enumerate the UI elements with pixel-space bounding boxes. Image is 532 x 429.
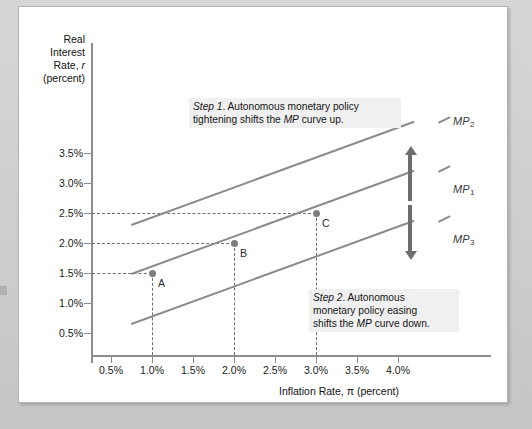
y-axis-title-line3: Rate, r bbox=[27, 59, 85, 72]
y-tick-1.5 bbox=[84, 273, 91, 274]
data-point-C bbox=[313, 210, 320, 217]
y-axis-line bbox=[91, 43, 93, 363]
curve-mp2-leader bbox=[438, 116, 451, 123]
y-tick-2.5 bbox=[84, 213, 91, 214]
curve-mp1-leader bbox=[438, 165, 451, 172]
data-point-B bbox=[231, 240, 238, 247]
data-point-label-B: B bbox=[240, 247, 247, 259]
y-tick-label-3.5: 3.5% bbox=[37, 148, 83, 158]
x-tick-label-4.0: 4.0% bbox=[373, 364, 423, 376]
x-tick-0.5 bbox=[111, 356, 112, 363]
x-tick-3.0 bbox=[316, 356, 317, 363]
curve-label-mp2: MP2 bbox=[453, 115, 475, 129]
y-axis-title: Real Interest Rate, r (percent) bbox=[27, 33, 85, 85]
annotation-step-2: Step 2. Autonomous monetary policy easin… bbox=[309, 289, 459, 332]
annotation-step-2-line1: Step 2. Autonomous bbox=[313, 291, 455, 304]
shift-arrow-up-head bbox=[405, 146, 417, 155]
curve-mp2 bbox=[131, 121, 414, 226]
shift-arrow-up-shaft bbox=[408, 155, 412, 201]
annotation-step-2-line3: shifts the MP curve down. bbox=[313, 317, 455, 330]
annotation-step-1-line1: Step 1. Autonomous monetary policy bbox=[193, 100, 397, 113]
shift-arrow-down-head bbox=[405, 251, 417, 260]
curve-label-mp3: MP3 bbox=[453, 233, 475, 247]
y-tick-3.5 bbox=[84, 153, 91, 154]
x-tick-3.5 bbox=[357, 356, 358, 363]
y-axis-title-line2: Interest bbox=[27, 46, 85, 59]
y-tick-label-1.0: 1.0% bbox=[37, 298, 83, 308]
guide-h-1.5 bbox=[92, 273, 152, 274]
annotation-step-1: Step 1. Autonomous monetary policy tight… bbox=[189, 98, 401, 128]
guide-v-C bbox=[316, 213, 317, 355]
annotation-step-2-line2: monetary policy easing bbox=[313, 304, 455, 317]
y-tick-3.0 bbox=[84, 183, 91, 184]
plot-area: Real Interest Rate, r (percent) 3.5% 3.0… bbox=[19, 7, 507, 402]
y-tick-0.5 bbox=[84, 333, 91, 334]
curve-mp3-leader bbox=[438, 215, 451, 222]
guide-h-2.5 bbox=[92, 213, 316, 214]
x-tick-2.5 bbox=[275, 356, 276, 363]
y-tick-label-2.5: 2.5% bbox=[37, 208, 83, 218]
x-tick-4.0 bbox=[398, 356, 399, 363]
annotation-step-1-line2: tightening shifts the MP curve up. bbox=[193, 113, 397, 126]
data-point-A bbox=[149, 270, 156, 277]
y-axis-title-line1: Real bbox=[27, 33, 85, 46]
y-tick-1.0 bbox=[84, 303, 91, 304]
data-point-label-A: A bbox=[158, 277, 165, 289]
y-tick-2.0 bbox=[84, 243, 91, 244]
shift-arrow-down-shaft bbox=[408, 205, 412, 251]
y-tick-label-1.5: 1.5% bbox=[37, 268, 83, 278]
y-tick-label-3.0: 3.0% bbox=[37, 178, 83, 188]
x-tick-1.5 bbox=[193, 356, 194, 363]
figure-root: Real Interest Rate, r (percent) 3.5% 3.0… bbox=[0, 0, 532, 429]
curve-mp1 bbox=[131, 170, 414, 275]
x-tick-2.0 bbox=[234, 356, 235, 363]
page-edge-artifact bbox=[0, 286, 7, 295]
chart-panel: Real Interest Rate, r (percent) 3.5% 3.0… bbox=[18, 6, 508, 403]
x-tick-1.0 bbox=[152, 356, 153, 363]
x-axis-line bbox=[91, 355, 491, 357]
y-axis-title-line4: (percent) bbox=[27, 72, 85, 85]
y-tick-label-2.0: 2.0% bbox=[37, 238, 83, 248]
curve-label-mp1: MP1 bbox=[453, 183, 475, 197]
data-point-label-C: C bbox=[322, 217, 330, 229]
guide-v-B bbox=[234, 243, 235, 355]
x-axis-title: Inflation Rate, π (percent) bbox=[279, 385, 399, 397]
y-tick-label-0.5: 0.5% bbox=[37, 328, 83, 338]
